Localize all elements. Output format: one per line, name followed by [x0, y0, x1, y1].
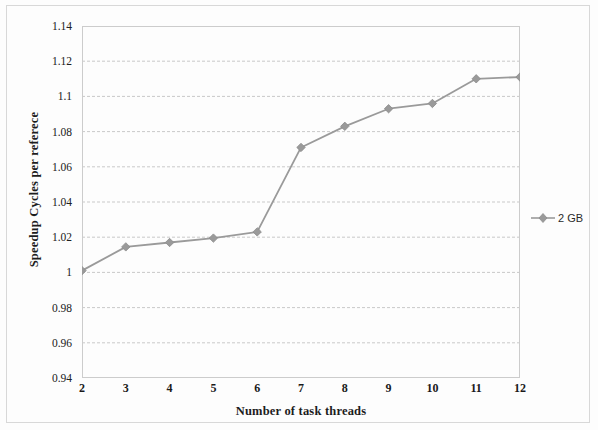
x-axis-tick-label: 5	[193, 381, 233, 396]
x-axis-tick-label: 6	[237, 381, 277, 396]
y-axis-tick-label: 1.06	[12, 161, 78, 173]
data-point-marker	[209, 234, 217, 242]
x-axis-tick-labels: 23456789101112	[82, 381, 520, 403]
y-axis-tick-label: 1.1	[12, 90, 78, 102]
y-axis-tick-label: 1.14	[12, 20, 78, 32]
data-point-marker	[297, 143, 305, 151]
x-axis-tick-label: 3	[106, 381, 146, 396]
chart-legend: 2 GB	[531, 212, 583, 224]
series-line	[82, 77, 520, 271]
series-group	[82, 73, 520, 275]
y-axis-tick-label: 1.08	[12, 126, 78, 138]
plot-canvas	[82, 26, 520, 378]
y-axis-tick-label: 1.12	[12, 55, 78, 67]
data-point-marker	[122, 243, 130, 251]
data-point-marker	[165, 238, 173, 246]
x-axis-tick-label: 2	[62, 381, 102, 396]
chart-figure: Speedup Cycles per referece 1.141.121.11…	[0, 0, 598, 430]
data-point-marker	[384, 105, 392, 113]
y-axis-tick-label: 1.04	[12, 196, 78, 208]
data-point-marker	[428, 99, 436, 107]
y-axis-tick-label: 1.02	[12, 231, 78, 243]
data-point-marker	[341, 122, 349, 130]
x-axis-tick-label: 12	[500, 381, 540, 396]
data-point-marker	[516, 73, 520, 81]
x-axis-tick-label: 4	[150, 381, 190, 396]
y-axis-tick-labels: 1.141.121.11.081.061.041.0210.980.960.94	[0, 0, 78, 430]
x-axis-tick-label: 7	[281, 381, 321, 396]
gridlines-group	[82, 26, 520, 378]
data-point-marker	[472, 75, 480, 83]
legend-entry-label: 2 GB	[558, 212, 583, 224]
x-axis-title: Number of task threads	[82, 404, 520, 419]
x-axis-tick-label: 11	[456, 381, 496, 396]
chart-plot-container: Speedup Cycles per referece 1.141.121.11…	[0, 0, 598, 430]
data-point-marker	[253, 228, 261, 236]
x-axis-tick-label: 9	[369, 381, 409, 396]
y-axis-tick-label: 0.98	[12, 302, 78, 314]
x-axis-tick-label: 8	[325, 381, 365, 396]
x-axis-tick-label: 10	[412, 381, 452, 396]
diamond-marker-icon	[531, 212, 555, 224]
y-axis-tick-label: 1	[12, 266, 78, 278]
y-axis-tick-label: 0.96	[12, 337, 78, 349]
